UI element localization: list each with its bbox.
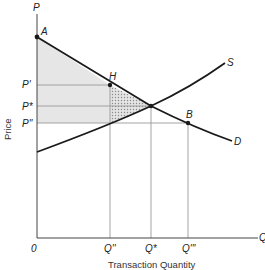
p-star-label: P* — [22, 101, 34, 112]
point-a-marker — [35, 35, 40, 40]
hatched-deadweight-region — [110, 85, 151, 123]
point-h-label: H — [109, 71, 117, 82]
point-h-marker — [108, 83, 112, 87]
y-axis-symbol: P — [33, 2, 40, 13]
p-double-prime-label: P'' — [22, 118, 34, 129]
point-b-marker — [186, 121, 190, 125]
q-triple-prime-label: Q''' — [182, 243, 197, 254]
y-axis-title: Price — [2, 118, 13, 140]
supply-demand-diagram: P Q 0 A H B D S P' P* P'' Q'' Q* Q''' Tr… — [0, 0, 265, 270]
p-prime-label: P' — [22, 79, 32, 90]
x-axis-title: Transaction Quantity — [108, 259, 196, 270]
demand-label: D — [234, 136, 241, 147]
q-double-prime-label: Q'' — [104, 243, 117, 254]
shaded-surplus-region — [37, 37, 110, 123]
supply-label: S — [227, 57, 234, 68]
point-a-label: A — [40, 26, 48, 37]
point-b-label: B — [186, 109, 193, 120]
origin-label: 0 — [31, 243, 37, 254]
q-star-label: Q* — [145, 243, 158, 254]
x-axis-symbol: Q — [259, 232, 265, 243]
equilibrium-marker — [149, 104, 153, 108]
